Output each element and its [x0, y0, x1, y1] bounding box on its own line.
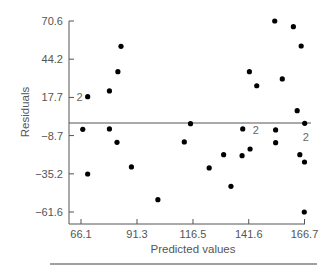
point-count-label: 2 [77, 91, 83, 103]
data-point [85, 171, 90, 176]
x-ticks: 66.191.3116.5141.6166.7 [70, 219, 318, 240]
data-point [114, 140, 119, 145]
data-point [155, 197, 160, 202]
data-point [115, 69, 120, 74]
data-point [228, 184, 233, 189]
data-point [188, 121, 193, 126]
data-point [221, 152, 226, 157]
x-axis-title: Predicted values [150, 243, 235, 255]
x-tick-label: 141.6 [235, 228, 263, 240]
data-point [240, 126, 245, 131]
data-point [107, 88, 112, 93]
data-points: 222 [77, 18, 309, 214]
data-point [85, 94, 90, 99]
data-point [254, 83, 259, 88]
y-tick-label: 70.6 [42, 15, 63, 27]
y-tick-label: −8.7 [41, 130, 63, 142]
y-axis: 70.644.217.7−8.7−35.2−61.6 [35, 15, 74, 224]
y-ticks: 70.644.217.7−8.7−35.2−61.6 [35, 15, 74, 218]
data-point [272, 18, 277, 23]
data-point [273, 127, 278, 132]
x-axis: 66.191.3116.5141.6166.7 [69, 219, 318, 240]
y-tick-label: −61.6 [35, 206, 63, 218]
y-tick-label: −35.2 [35, 168, 63, 180]
y-axis-title: Residuals [19, 87, 31, 138]
x-tick-label: 91.3 [126, 228, 147, 240]
data-point [207, 165, 212, 170]
data-point [273, 140, 278, 145]
data-point [302, 209, 307, 214]
x-tick-label: 66.1 [70, 228, 91, 240]
data-point [302, 159, 307, 164]
data-point [280, 76, 285, 81]
y-tick-label: 17.7 [42, 91, 63, 103]
data-point [295, 108, 300, 113]
data-point [239, 153, 244, 158]
data-point [291, 24, 296, 29]
residual-plot: 70.644.217.7−8.7−35.2−61.6 66.191.3116.5… [0, 0, 335, 272]
data-point [182, 139, 187, 144]
data-point [299, 43, 304, 48]
point-count-label: 2 [253, 124, 259, 136]
x-tick-label: 166.7 [291, 228, 319, 240]
data-point [129, 164, 134, 169]
data-point [247, 146, 252, 151]
data-point [107, 126, 112, 131]
data-point [247, 69, 252, 74]
y-tick-label: 44.2 [42, 53, 63, 65]
x-tick-label: 116.5 [180, 228, 207, 240]
data-point [80, 127, 85, 132]
data-point [297, 152, 302, 157]
data-point [302, 121, 307, 126]
point-count-label: 2 [303, 131, 309, 143]
data-point [118, 44, 123, 49]
